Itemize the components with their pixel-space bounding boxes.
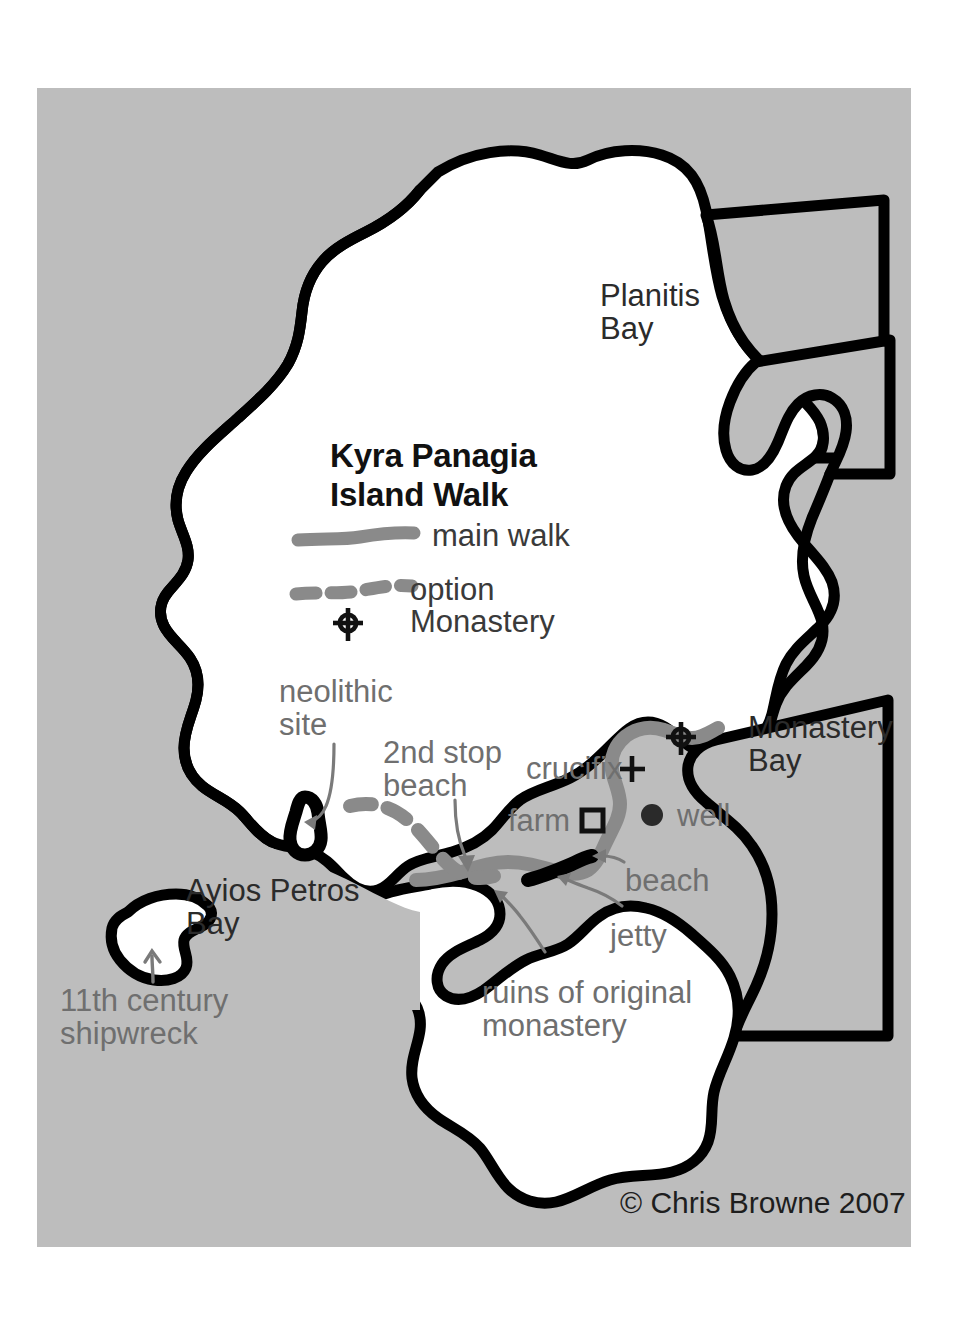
annotation-well: well <box>677 800 730 833</box>
map-title: Kyra PanagiaIsland Walk <box>330 437 537 515</box>
legend-label-monastery: Monastery <box>410 604 555 640</box>
annotation-ruins-of-original-monastery: ruins of original monastery <box>482 977 692 1043</box>
well-dot-icon <box>641 804 663 826</box>
annotation-neolithic-site: neolithic site <box>279 676 393 742</box>
map-title-line2: Island Walk <box>330 476 508 513</box>
copyright-notice: © Chris Browne 2007 <box>620 1186 906 1220</box>
jetty-leader <box>568 880 622 906</box>
place-label-planitis-bay: Planitis Bay <box>600 280 700 346</box>
crucifix-plus-icon <box>620 756 645 782</box>
place-label-ayios-petros-bay: Ayios Petros Bay <box>186 875 359 941</box>
annotation-beach: beach <box>625 865 709 898</box>
shipwreck-leader <box>152 956 153 982</box>
annotation-shipwreck: 11th century shipwreck <box>60 985 228 1051</box>
legend-label-main-walk: main walk <box>432 518 570 554</box>
ruins-leader <box>502 896 545 952</box>
map-title-line1: Kyra Panagia <box>330 437 537 474</box>
annotation-jetty: jetty <box>610 920 667 953</box>
annotation-farm: farm <box>508 805 570 838</box>
annotation-crucifix: crucifix <box>526 753 622 786</box>
neolithic-site-lagoon <box>290 797 321 855</box>
legend-main-walk-line <box>298 533 414 540</box>
map-page: Kyra PanagiaIsland Walk main walk option… <box>0 0 954 1318</box>
annotation-second-stop-beach: 2nd stop beach <box>383 737 502 803</box>
farm-square-icon <box>582 810 603 831</box>
place-label-monastery-bay: Monastery Bay <box>748 712 893 778</box>
legend-label-option: option <box>410 572 494 608</box>
map-graphics <box>0 0 954 1318</box>
